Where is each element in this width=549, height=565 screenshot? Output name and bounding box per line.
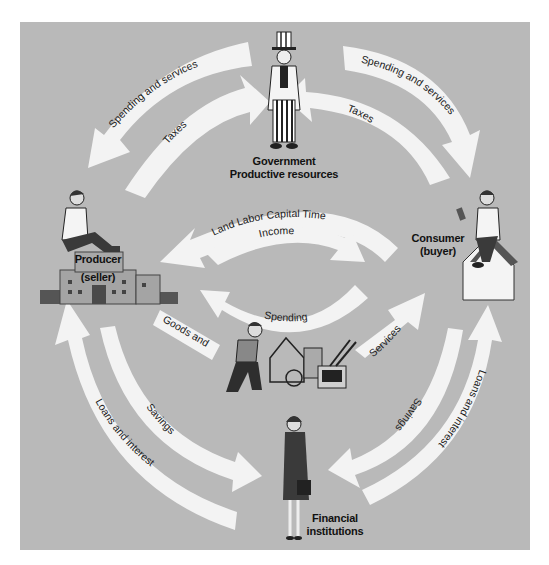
consumer-label: Consumer (buyer) [408, 232, 468, 258]
arrow-spending [200, 285, 368, 332]
goods-and-services-icon [226, 322, 356, 392]
financial-subtitle: institutions [300, 525, 370, 538]
financial-title: Financial [300, 512, 370, 525]
government-title: Government [224, 155, 344, 168]
government-subtitle: Productive resources [224, 168, 344, 181]
label-spending: Spending [263, 309, 308, 324]
producer-person-icon [62, 190, 120, 252]
financial-label: Financial institutions [300, 512, 370, 538]
circular-flow-diagram: Spending and services Taxes Spending and… [0, 0, 549, 565]
producer-label: Producer (seller) [68, 253, 128, 284]
producer-title: Producer [68, 253, 128, 266]
arrow-services [355, 293, 425, 358]
consumer-subtitle: (buyer) [408, 245, 468, 258]
consumer-title: Consumer [408, 232, 468, 245]
label-gov-producer-spending: Spending and services [106, 57, 199, 130]
government-label: Government Productive resources [224, 155, 344, 181]
government-figure-icon [268, 32, 300, 149]
producer-subtitle: (seller) [68, 271, 128, 284]
